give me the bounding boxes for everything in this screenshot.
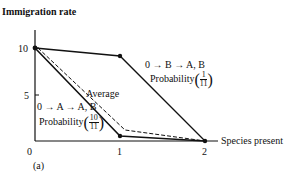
- series-a-first-label: 0 → A → A, B: [37, 101, 96, 112]
- series-b-probability: Probability(111): [150, 71, 213, 88]
- y-tick-label-5: 5: [24, 90, 29, 101]
- x-tick-label-1: 1: [117, 146, 122, 157]
- average-label: Average: [86, 88, 119, 99]
- series-a-probability: Probability(1011): [39, 114, 104, 131]
- series-b-probability-label: Probability: [150, 73, 194, 84]
- point-0-10: [33, 46, 38, 51]
- point-1-high: [118, 54, 122, 58]
- series-a-probability-label: Probability: [39, 116, 83, 127]
- y-axis-label: Immigration rate: [2, 6, 64, 17]
- point-2-0: [203, 139, 207, 143]
- panel-label: (a): [33, 160, 44, 171]
- point-1-low: [118, 134, 122, 138]
- y-tick-label-10: 10: [18, 43, 28, 54]
- x-tick-label-0: 0: [27, 146, 32, 157]
- chart-plot-area: [0, 0, 300, 178]
- x-axis-label: Species present: [221, 135, 283, 146]
- series-a-fraction: 1011: [89, 114, 99, 131]
- y-axis-label-text: Immigration rate: [2, 6, 76, 17]
- series-b-first-label: 0 → B → A, B: [145, 59, 205, 70]
- x-tick-label-2: 2: [202, 146, 207, 157]
